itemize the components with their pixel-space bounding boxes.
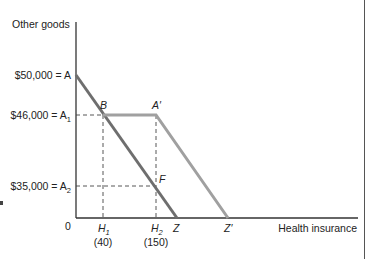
- point-B-label: B: [100, 99, 107, 111]
- x-tick-H2: H2: [151, 222, 164, 237]
- origin-label: 0: [65, 220, 71, 232]
- y-tick-A: $50,000 = A: [15, 69, 71, 81]
- point-Z-label: Z: [172, 222, 180, 234]
- x-tick-H2-value: (150): [144, 236, 169, 248]
- y-tick-A1: $46,000 = A1: [10, 109, 71, 124]
- budget-constraint-chart: Other goods $50,000 = A $46,000 = A1 $35…: [0, 0, 367, 259]
- page-edge-border: [364, 0, 365, 259]
- point-Z-prime-label: Z′: [223, 222, 233, 234]
- point-A-prime-label: A′: [151, 99, 162, 111]
- x-axis-label: Health insurance: [278, 222, 357, 234]
- y-tick-A2: $35,000 = A2: [10, 180, 71, 195]
- point-F-label: F: [159, 173, 166, 185]
- original-budget-line: [76, 75, 177, 218]
- y-axis-label: Other goods: [12, 18, 70, 30]
- cropped-text-fragment: [0, 201, 3, 205]
- x-tick-H1-value: (40): [94, 236, 113, 248]
- x-tick-H1: H1: [98, 222, 110, 237]
